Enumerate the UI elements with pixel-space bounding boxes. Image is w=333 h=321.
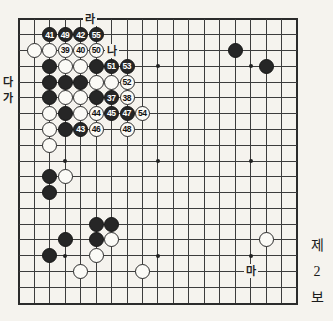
caption-je: 제	[311, 238, 324, 255]
grid-line-horizontal	[19, 208, 297, 209]
grid-line-vertical	[281, 19, 282, 303]
move-number: 42	[76, 31, 84, 40]
stone-white-38: 38	[120, 90, 135, 105]
go-board: 41494255394050515352373844454754434648라나…	[0, 0, 333, 321]
grid-line-vertical	[173, 19, 174, 303]
grid-line-vertical	[188, 19, 189, 303]
move-number: 52	[123, 78, 131, 87]
star-point	[249, 64, 253, 68]
grid-line-horizontal	[19, 192, 297, 193]
go-diagram-page: 41494255394050515352373844454754434648라나…	[0, 0, 333, 321]
point-label-na: 나	[105, 44, 119, 58]
move-number: 47	[123, 109, 131, 118]
star-point	[156, 254, 160, 258]
stone-black	[42, 75, 57, 90]
edge-label-ga: 가	[1, 91, 15, 105]
point-label-ma: 마	[244, 264, 258, 278]
move-number: 53	[123, 62, 131, 71]
move-number: 37	[107, 94, 115, 103]
stone-white-46: 46	[89, 122, 104, 137]
star-point	[249, 254, 253, 258]
stone-black	[58, 106, 73, 121]
stone-black	[58, 75, 73, 90]
stone-black	[259, 59, 274, 74]
stone-white	[73, 59, 88, 74]
stone-white-39: 39	[58, 43, 73, 58]
stone-white	[58, 59, 73, 74]
stone-black-49: 49	[58, 27, 73, 42]
stone-white	[89, 248, 104, 263]
grid-line-horizontal	[19, 224, 297, 225]
stone-white-52: 52	[120, 75, 135, 90]
move-number: 38	[123, 94, 131, 103]
move-number: 39	[61, 46, 69, 55]
caption-number: 2	[314, 264, 321, 281]
stone-white	[27, 43, 42, 58]
stone-black	[104, 217, 119, 232]
move-number: 54	[138, 109, 146, 118]
stone-white	[259, 232, 274, 247]
stone-white	[89, 75, 104, 90]
edge-label-da: 다	[1, 75, 15, 89]
move-number: 43	[76, 125, 84, 134]
move-number: 46	[92, 125, 100, 134]
diagram-caption: 제 2 보	[306, 238, 328, 306]
stone-black	[58, 122, 73, 137]
point-label-ra: 라	[83, 12, 97, 26]
move-number: 50	[92, 46, 100, 55]
stone-black-53: 53	[120, 59, 135, 74]
stone-black	[89, 217, 104, 232]
stone-black	[73, 75, 88, 90]
move-number: 51	[107, 62, 115, 71]
grid-line-vertical	[235, 19, 236, 303]
move-number: 55	[92, 31, 100, 40]
move-number: 48	[123, 125, 131, 134]
stone-black	[89, 90, 104, 105]
star-point	[156, 159, 160, 163]
stone-black-55: 55	[89, 27, 104, 42]
stone-white	[104, 75, 119, 90]
move-number: 45	[107, 109, 115, 118]
stone-black	[89, 59, 104, 74]
stone-white-48: 48	[120, 122, 135, 137]
move-number: 49	[61, 31, 69, 40]
stone-black-51: 51	[104, 59, 119, 74]
stone-white	[135, 264, 150, 279]
star-point	[249, 159, 253, 163]
grid-line-vertical	[204, 19, 205, 303]
stone-white-44: 44	[89, 106, 104, 121]
stone-black	[228, 43, 243, 58]
move-number: 41	[45, 31, 53, 40]
stone-black-47: 47	[120, 106, 135, 121]
move-number: 40	[76, 46, 84, 55]
grid-line-vertical	[219, 19, 220, 303]
move-number: 44	[92, 109, 100, 118]
grid-line-horizontal	[19, 287, 297, 288]
caption-bo: 보	[311, 290, 324, 307]
stone-white-50: 50	[89, 43, 104, 58]
